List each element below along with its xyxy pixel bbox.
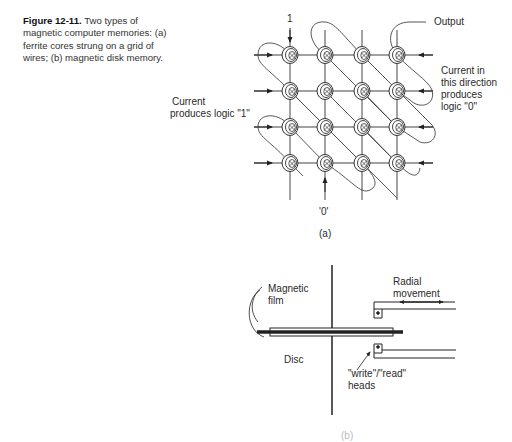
head-lower [374, 344, 456, 358]
head-upper [374, 302, 456, 318]
label-heads-2: heads [348, 380, 375, 392]
label-current-right-2: this direction [441, 77, 497, 89]
label-current-left-1: Current [172, 96, 205, 108]
sublabel-b: (b) [341, 430, 353, 442]
label-current-right-4: logic "0" [441, 101, 477, 113]
label-current-left-2: produces logic "1" [170, 108, 250, 120]
label-magnetic-film-1: Magnetic [268, 283, 309, 295]
label-output: Output [434, 16, 464, 28]
label-radial-2: movement [393, 288, 440, 300]
label-input-1: 1 [287, 13, 293, 25]
label-input-0: '0' [319, 206, 328, 218]
label-radial-1: Radial [393, 276, 421, 288]
label-current-right-1: Current in [441, 65, 485, 77]
sublabel-a: (a) [319, 228, 331, 240]
film-arrow-2 [249, 290, 264, 337]
label-disc: Disc [284, 354, 303, 366]
label-current-right-3: produces [441, 89, 482, 101]
label-heads-1: "write"/"read" [348, 368, 406, 380]
input-arrows-right [419, 55, 433, 163]
label-magnetic-film-2: film [268, 295, 284, 307]
